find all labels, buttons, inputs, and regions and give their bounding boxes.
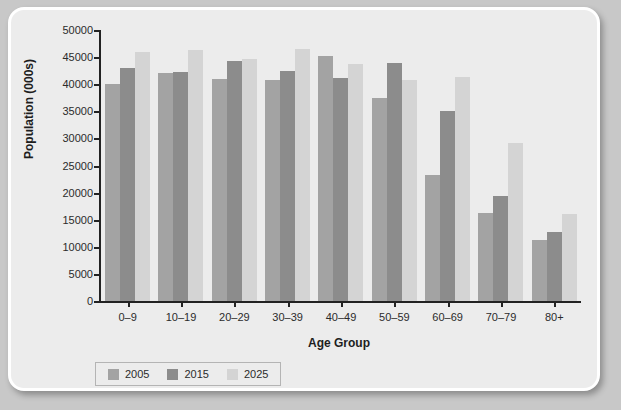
x-axis-tick [501, 301, 503, 307]
x-axis-label: 60–69 [432, 311, 463, 323]
y-axis-tick [94, 111, 101, 113]
x-axis-label: 70–79 [486, 311, 517, 323]
y-axis-tick [94, 220, 101, 222]
chart-card: Population (000s) 0500010000150002000025… [8, 7, 600, 391]
bar-2015-60–69 [440, 111, 455, 301]
y-axis-label: 45000 [62, 51, 93, 63]
x-axis-label: 20–29 [219, 311, 250, 323]
y-axis-label: 20000 [62, 187, 93, 199]
legend-item-2005[interactable]: 2005 [108, 368, 149, 380]
x-axis-tick [234, 301, 236, 307]
x-axis-label: 40–49 [326, 311, 357, 323]
bar-2005-70–79 [478, 213, 493, 301]
legend-swatch-icon [108, 369, 119, 380]
bar-2005-20–29 [212, 79, 227, 301]
bar-2025-50–59 [402, 80, 417, 301]
bar-2015-10–19 [173, 72, 188, 301]
y-axis-tick [94, 247, 101, 249]
legend-item-2015[interactable]: 2015 [167, 368, 208, 380]
bar-2005-10–19 [158, 73, 173, 301]
x-axis-tick [394, 301, 396, 307]
legend-swatch-icon [227, 369, 238, 380]
bar-2025-20–29 [242, 59, 257, 301]
bar-2015-40–49 [333, 78, 348, 301]
bar-group [314, 30, 367, 301]
bar-2025-40–49 [348, 64, 363, 301]
bar-2015-80+ [547, 232, 562, 301]
plot-area: 0500010000150002000025000300003500040000… [99, 30, 581, 303]
bar-2015-0–9 [120, 68, 135, 301]
y-axis-label: 0 [87, 295, 93, 307]
bar-group [368, 30, 421, 301]
bar-2025-10–19 [188, 50, 203, 301]
x-axis-label: 10–19 [166, 311, 197, 323]
y-axis-label: 15000 [62, 214, 93, 226]
y-axis-tick [94, 138, 101, 140]
y-axis-tick [94, 301, 101, 303]
bar-group [528, 30, 581, 301]
legend-swatch-icon [167, 369, 178, 380]
bar-group [421, 30, 474, 301]
x-axis-label: 80+ [545, 311, 564, 323]
x-axis-label: 30–39 [272, 311, 303, 323]
y-axis-label: 50000 [62, 24, 93, 36]
legend-label: 2015 [184, 368, 208, 380]
bars-container [101, 30, 581, 301]
bar-2005-30–39 [265, 80, 280, 301]
x-axis-tick [554, 301, 556, 307]
bar-2025-80+ [562, 214, 577, 301]
bar-2015-30–39 [280, 71, 295, 301]
x-axis-tick [181, 301, 183, 307]
y-axis-tick [94, 30, 101, 32]
bar-2015-50–59 [387, 63, 402, 301]
legend-label: 2025 [244, 368, 268, 380]
y-axis-label: 35000 [62, 105, 93, 117]
y-axis-tick [94, 193, 101, 195]
y-axis-tick [94, 57, 101, 59]
bar-2025-60–69 [455, 77, 470, 301]
x-axis-label: 0–9 [118, 311, 136, 323]
bar-2005-50–59 [372, 98, 387, 301]
y-axis-tick [94, 274, 101, 276]
bar-group [474, 30, 527, 301]
legend-label: 2005 [125, 368, 149, 380]
legend-item-2025[interactable]: 2025 [227, 368, 268, 380]
bar-2025-70–79 [508, 143, 523, 301]
chart-legend: 200520152025 [95, 362, 281, 386]
bar-2015-20–29 [227, 61, 242, 301]
bar-chart: Population (000s) 0500010000150002000025… [11, 10, 597, 388]
y-axis-tick [94, 166, 101, 168]
x-axis-tick [341, 301, 343, 307]
bar-group [154, 30, 207, 301]
x-axis-title: Age Group [99, 336, 579, 350]
bar-2005-40–49 [318, 56, 333, 301]
y-axis-label: 30000 [62, 132, 93, 144]
x-axis-label: 50–59 [379, 311, 410, 323]
bar-2005-60–69 [425, 175, 440, 301]
bar-group [261, 30, 314, 301]
bar-2015-70–79 [493, 196, 508, 301]
y-axis-label: 5000 [69, 268, 93, 280]
y-axis-tick [94, 84, 101, 86]
bar-group [208, 30, 261, 301]
bar-2025-30–39 [295, 49, 310, 301]
bar-2005-80+ [532, 240, 547, 301]
y-axis-label: 10000 [62, 241, 93, 253]
bar-2025-0–9 [135, 52, 150, 301]
y-axis-label: 25000 [62, 160, 93, 172]
bar-group [101, 30, 154, 301]
x-axis-tick [288, 301, 290, 307]
x-axis-tick [128, 301, 130, 307]
y-axis-title: Population (000s) [22, 29, 36, 189]
y-axis-label: 40000 [62, 78, 93, 90]
x-axis-tick [448, 301, 450, 307]
bar-2005-0–9 [105, 84, 120, 301]
